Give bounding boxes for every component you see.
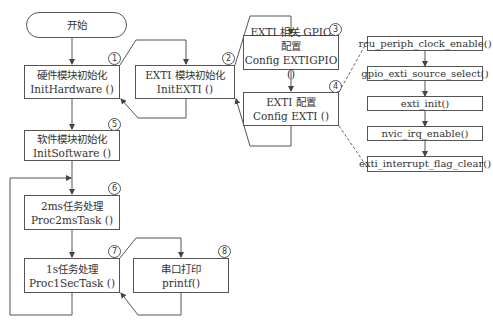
step-number-1: 1 — [108, 52, 121, 65]
exti-step-label: gpio_exti_source_select() — [361, 68, 488, 80]
config-exti-gpio-fn: Config EXTIGPIO () — [244, 53, 338, 81]
init-hardware-node: 硬件模块初始化 InitHardware () — [24, 65, 120, 99]
step-number-8: 8 — [218, 245, 231, 258]
exti-step-flag-clear: exti_interrupt_flag_clear() — [367, 156, 483, 172]
init-exti-cn: EXTI 模块初始化 — [145, 68, 225, 82]
config-exti-gpio-node: EXTI 相关 GPIO 配置 Config EXTIGPIO () — [243, 35, 339, 70]
init-hardware-cn: 硬件模块初始化 — [37, 68, 107, 82]
exti-step-label: exti_init() — [401, 98, 449, 110]
start-label: 开始 — [67, 18, 87, 32]
start-node: 开始 — [26, 12, 127, 38]
printf-node: 串口打印 printf() — [133, 258, 229, 293]
exti-step-label: rcu_periph_clock_enable() — [358, 38, 491, 50]
proc-2ms-fn: Proc2msTask () — [31, 213, 113, 227]
step-number-4: 4 — [329, 80, 342, 93]
proc-1s-cn: 1s任务处理 — [46, 262, 98, 276]
proc-1s-fn: Proc1SecTask () — [29, 276, 115, 290]
step-number-6: 6 — [108, 182, 121, 195]
step-number-7: 7 — [108, 245, 121, 258]
exti-step-gpio-source: gpio_exti_source_select() — [367, 66, 483, 81]
printf-cn: 串口打印 — [161, 262, 201, 276]
exti-step-exti-init: exti_init() — [367, 96, 483, 111]
exti-step-label: nvic_irq_enable() — [382, 128, 469, 140]
config-exti-fn: Config EXTI () — [253, 109, 329, 123]
init-exti-fn: InitEXTI () — [157, 82, 213, 96]
config-exti-node: EXTI 配置 Config EXTI () — [243, 92, 339, 126]
step-number-3: 3 — [329, 23, 342, 36]
config-exti-gpio-cn: EXTI 相关 GPIO 配置 — [244, 25, 338, 53]
init-software-fn: InitSoftware () — [33, 146, 111, 160]
exti-step-nvic-enable: nvic_irq_enable() — [367, 126, 483, 141]
init-exti-node: EXTI 模块初始化 InitEXTI () — [135, 65, 235, 99]
proc-1s-node: 1s任务处理 Proc1SecTask () — [24, 258, 120, 293]
init-software-cn: 软件模块初始化 — [37, 132, 107, 146]
step-number-2: 2 — [222, 52, 235, 65]
proc-2ms-node: 2ms任务处理 Proc2msTask () — [24, 195, 120, 230]
init-software-node: 软件模块初始化 InitSoftware () — [24, 130, 120, 161]
exti-step-label: exti_interrupt_flag_clear() — [359, 158, 491, 170]
step-number-5: 5 — [108, 118, 121, 131]
init-hardware-fn: InitHardware () — [30, 82, 114, 96]
printf-fn: printf() — [162, 276, 200, 290]
exti-step-rcu-clock: rcu_periph_clock_enable() — [367, 36, 483, 51]
config-exti-cn: EXTI 配置 — [266, 95, 316, 109]
proc-2ms-cn: 2ms任务处理 — [41, 199, 103, 213]
